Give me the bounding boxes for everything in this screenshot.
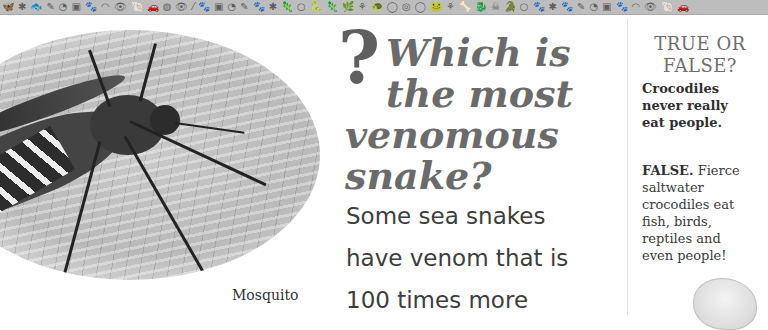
answer-line: 100 times more xyxy=(346,279,611,321)
border-icon: ▣ xyxy=(602,0,611,14)
border-icon: ✱ xyxy=(269,0,277,14)
border-icon: 🐟 xyxy=(30,0,42,14)
border-icon: ▣ xyxy=(214,0,223,14)
statement-line: never really xyxy=(642,97,766,114)
border-icon: 🐾 xyxy=(253,0,265,14)
border-icon: ✎ xyxy=(240,0,248,14)
answer-line: even people! xyxy=(642,247,766,264)
border-icon: ✱ xyxy=(18,0,26,14)
border-icon: 🦴 xyxy=(459,0,471,14)
border-icon: ⚘ xyxy=(446,0,455,14)
border-icon: 🐾 xyxy=(533,0,545,14)
border-icon: 🐚 xyxy=(131,0,143,14)
border-icon: 🐢 xyxy=(371,0,383,14)
crocodile-illustration xyxy=(693,278,757,330)
question-line: venomous xyxy=(345,114,605,155)
border-icon: 🚗 xyxy=(147,0,159,14)
border-icon: ◔ xyxy=(59,0,68,14)
border-icon: 👁 xyxy=(175,0,188,14)
border-icon: 🌿 xyxy=(342,0,354,14)
answer-line: reptiles and xyxy=(642,230,766,247)
statement-line: eat people. xyxy=(642,114,766,131)
border-icon: ◠ xyxy=(101,0,110,14)
answer-line: saltwater xyxy=(642,179,766,196)
question-line: Which is xyxy=(345,32,605,73)
border-icon: ○ xyxy=(297,0,306,14)
border-icon: ✎ xyxy=(577,0,585,14)
question-line: snake? xyxy=(345,155,605,196)
true-false-statement: Crocodiles never really eat people. xyxy=(642,80,766,131)
border-icon: 🐉 xyxy=(475,0,487,14)
title-line: TRUE OR xyxy=(640,33,760,55)
mosquito-illustration xyxy=(0,30,320,280)
border-icon: ◔ xyxy=(589,0,598,14)
border-icon: 🐚 xyxy=(661,0,673,14)
question-heading: Which is the most venomous snake? xyxy=(345,32,605,196)
border-icon: 🐸 xyxy=(430,0,442,14)
true-false-title: TRUE OR FALSE? xyxy=(640,33,760,77)
border-icon: 🐾 xyxy=(561,0,573,14)
border-icon: 🐾 xyxy=(616,0,628,14)
border-icon: 🐾 xyxy=(198,0,210,14)
border-icon: 🦎 xyxy=(326,0,338,14)
answer-line: fish, birds, xyxy=(642,213,766,230)
border-icon: 🦎 xyxy=(281,0,293,14)
border-icon: ◠ xyxy=(632,0,641,14)
mosquito-proboscis xyxy=(175,122,245,134)
border-icon: 🐊 xyxy=(504,0,516,14)
border-icon: 🚗 xyxy=(677,0,689,14)
question-line: the most xyxy=(345,73,605,114)
true-false-answer: FALSE. Fierce saltwater crocodiles eat f… xyxy=(642,162,766,264)
image-caption: Mosquito xyxy=(232,287,298,303)
border-icon: 👁 xyxy=(114,0,127,14)
mosquito-leg xyxy=(139,43,157,102)
border-icon: ◔ xyxy=(228,0,237,14)
answer-text: Some sea snakes have venom that is 100 t… xyxy=(346,195,611,321)
border-icon: ▣ xyxy=(72,0,81,14)
border-icon: ○ xyxy=(520,0,529,14)
border-icon: ☠ xyxy=(491,0,500,14)
border-icon: ◯ xyxy=(415,0,426,14)
mosquito-leg xyxy=(124,136,212,280)
title-line: FALSE? xyxy=(640,55,760,77)
border-icon: ✱ xyxy=(549,0,557,14)
answer-line: Fierce xyxy=(694,163,740,178)
border-icon: 🦋 xyxy=(2,0,14,14)
border-icon: ◍ xyxy=(163,0,172,14)
border-icon: 🐍 xyxy=(310,0,322,14)
statement-line: Crocodiles xyxy=(642,80,766,97)
border-icon: ◯ xyxy=(387,0,398,14)
verdict: FALSE. xyxy=(642,163,694,178)
answer-line: Some sea snakes xyxy=(346,195,611,237)
border-icon: ◎ xyxy=(402,0,411,14)
answer-line: have venom that is xyxy=(346,237,611,279)
answer-line: crocodiles eat xyxy=(642,196,766,213)
border-icon: 👁 xyxy=(644,0,657,14)
border-icon: ⁄ xyxy=(192,0,194,14)
border-icon: ⚘ xyxy=(358,0,367,14)
column-divider xyxy=(627,18,628,315)
border-icon: 🐾 xyxy=(85,0,97,14)
decorative-icon-border: 🦋✱🐟✎◔▣🐾◠👁🐚🚗◍👁⁄🐾▣◔✎🐾✱🦎○🐍🦎🌿⚘🐢◯◎◯🐸⚘🦴🐉☠🐊○🐾✱🐾… xyxy=(0,0,768,15)
border-icon: ✎ xyxy=(46,0,54,14)
